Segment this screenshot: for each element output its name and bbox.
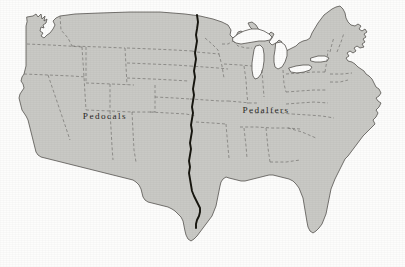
land-mass-group (19, 6, 381, 241)
region-label-pedocals: Pedocals (83, 111, 127, 121)
lake-ontario (311, 56, 329, 62)
region-label-pedalfers: Pedalfers (242, 105, 289, 115)
map-figure: Pedocals Pedalfers (0, 0, 405, 267)
us-soil-map: Pedocals Pedalfers (0, 0, 405, 267)
contiguous-us-landmass (19, 6, 381, 241)
